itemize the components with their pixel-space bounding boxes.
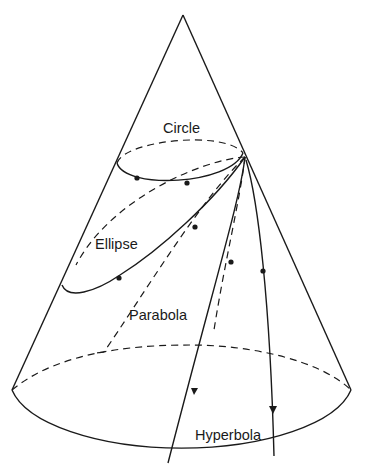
- hyperbola-point-marker: [260, 268, 265, 273]
- cone-base-front: [12, 390, 351, 448]
- ellipse-point-marker: [116, 275, 121, 280]
- hyperbola-right-branch: [246, 160, 274, 456]
- label-ellipse: Ellipse: [95, 236, 138, 252]
- parabola-base-tick: [96, 352, 104, 353]
- conic-sections-diagram: Circle Ellipse Parabola Hyperbola: [0, 0, 365, 471]
- cone-base-back: [12, 345, 351, 390]
- circle-point-marker: [134, 175, 139, 180]
- hyperbola-point-marker: [228, 259, 233, 264]
- circle-back: [117, 140, 243, 163]
- label-parabola: Parabola: [129, 307, 188, 323]
- cone-right-edge: [183, 15, 351, 390]
- cone-left-edge: [12, 15, 183, 390]
- circle-point-marker: [184, 180, 189, 185]
- label-hyperbola: Hyperbola: [195, 427, 262, 443]
- ellipse-point-marker: [192, 224, 197, 229]
- hyperbola-arrow-right: [269, 406, 277, 414]
- hyperbola-arrow-left: [191, 388, 198, 395]
- label-circle: Circle: [163, 120, 200, 136]
